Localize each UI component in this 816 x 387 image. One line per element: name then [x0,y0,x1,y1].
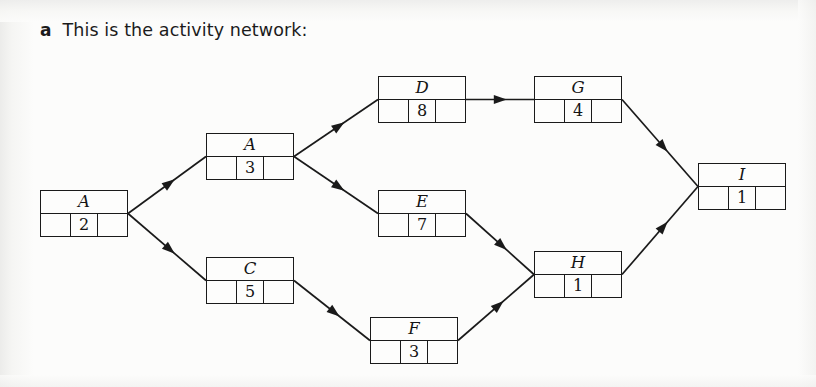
early-start-cell [379,214,408,237]
duration-cell: 5 [236,281,265,304]
activity-label-cell: H [535,252,621,275]
activity-duration: 4 [573,103,583,119]
activity-node-h-1: H1 [534,251,622,298]
activity-label: A [244,137,256,154]
edge-arrowhead [327,305,340,317]
activity-label: F [408,321,419,338]
late-finish-cell [436,214,465,237]
activity-duration: 8 [417,103,427,119]
edge-a1-to-a2 [128,157,206,214]
activity-time-row: 8 [379,100,465,123]
activity-label-cell: F [371,318,457,341]
early-start-cell [699,187,728,210]
activity-label: G [571,80,584,97]
duration-cell: 8 [408,100,437,123]
edge-g-to-i [622,100,698,187]
activity-label-cell: I [699,164,785,187]
late-finish-cell [436,100,465,123]
edge-a1-to-c [128,214,206,281]
activity-time-row: 3 [207,157,293,180]
activity-label-cell: A [207,134,293,157]
activity-time-row: 3 [371,341,457,364]
edge-arrowhead [331,180,344,191]
activity-time-row: 1 [699,187,785,210]
activity-duration: 3 [245,160,255,176]
activity-node-d-8: D8 [378,76,466,123]
activity-time-row: 4 [535,100,621,123]
activity-label: H [571,255,585,272]
activity-time-row: 5 [207,281,293,304]
activity-label: E [416,194,428,211]
activity-node-c-5: C5 [206,257,294,304]
activity-node-e-7: E7 [378,190,466,237]
early-start-cell [379,100,408,123]
activity-duration: 3 [409,344,419,360]
duration-cell: 1 [564,275,593,298]
edge-a2-to-e [294,157,378,214]
late-finish-cell [592,275,621,298]
activity-label-cell: D [379,77,465,100]
activity-node-a-2: A2 [40,190,128,237]
duration-cell: 4 [564,100,593,123]
early-start-cell [207,281,236,304]
activity-label-cell: C [207,258,293,281]
edge-e-to-h [466,214,534,275]
edge-f-to-h [458,275,534,341]
late-finish-cell [264,157,293,180]
activity-label: I [739,167,746,184]
edge-h-to-i [622,187,698,275]
activity-duration: 2 [79,217,89,233]
activity-time-row: 2 [41,214,127,237]
activity-label-cell: G [535,77,621,100]
duration-cell: 7 [408,214,437,237]
activity-label-cell: A [41,191,127,214]
activity-label: D [415,80,428,97]
activity-time-row: 1 [535,275,621,298]
duration-cell: 1 [728,187,757,210]
duration-cell: 3 [400,341,429,364]
edge-c-to-f [294,281,370,341]
activity-node-g-4: G4 [534,76,622,123]
edge-arrowhead [494,95,507,104]
late-finish-cell [756,187,785,210]
scanned-page: a This is the activity network: A2A3C5D8… [0,0,816,387]
activity-duration: 1 [737,190,747,206]
activity-duration: 7 [417,217,427,233]
activity-duration: 5 [245,284,255,300]
duration-cell: 2 [70,214,99,237]
edge-d-to-g [466,95,534,104]
activity-label: A [78,194,90,211]
activity-node-i-1: I1 [698,163,786,210]
early-start-cell [371,341,400,364]
activity-node-f-3: F3 [370,317,458,364]
late-finish-cell [428,341,457,364]
early-start-cell [207,157,236,180]
early-start-cell [535,275,564,298]
early-start-cell [41,214,70,237]
edge-a2-to-d [294,100,378,157]
early-start-cell [535,100,564,123]
late-finish-cell [592,100,621,123]
activity-label-cell: E [379,191,465,214]
activity-label: C [244,261,257,278]
activity-duration: 1 [573,278,583,294]
duration-cell: 3 [236,157,265,180]
late-finish-cell [98,214,127,237]
activity-time-row: 7 [379,214,465,237]
late-finish-cell [264,281,293,304]
edge-arrowhead [331,122,344,133]
edge-arrowhead [162,179,175,190]
activity-node-a-3: A3 [206,133,294,180]
